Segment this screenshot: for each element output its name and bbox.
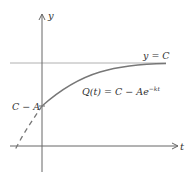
curve-equation-exponent: −kt <box>149 85 161 92</box>
curve-equation-main: Q(t) = C − Ae <box>82 86 149 97</box>
asymptote-label: y = C <box>142 50 170 61</box>
exponential-growth-diagram: y t y = C C − A Q(t) = C − Ae−kt <box>0 0 186 185</box>
curve-dashed-extension <box>15 106 42 150</box>
intercept-label: C − A <box>12 101 40 112</box>
x-axis-label: t <box>180 141 185 152</box>
curve-solid <box>42 64 166 107</box>
y-axis-label: y <box>47 10 54 21</box>
curve-equation-label: Q(t) = C − Ae−kt <box>82 85 160 97</box>
